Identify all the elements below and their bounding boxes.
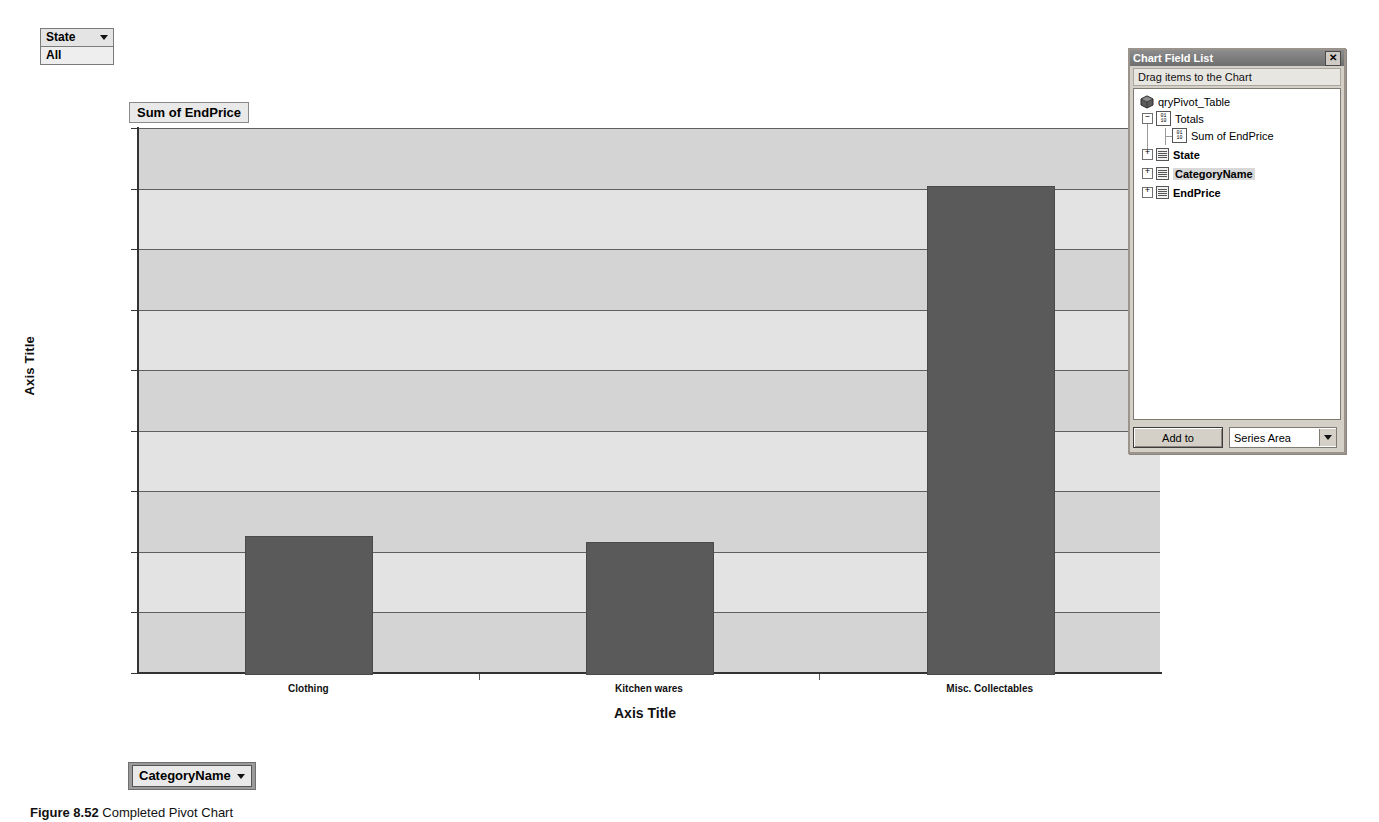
chart-field-list-subtitle: Drag items to the Chart — [1133, 68, 1341, 86]
y-tick-mark — [131, 128, 138, 129]
tree-item-label: Sum of EndPrice — [1191, 130, 1274, 142]
series-title-box[interactable]: Sum of EndPrice — [129, 102, 249, 123]
chart-field-list-tree[interactable]: qryPivot_Table – 0110 Totals 0110 Sum of… — [1133, 88, 1341, 420]
tree-root-row[interactable]: qryPivot_Table — [1140, 93, 1230, 110]
cube-icon — [1140, 95, 1154, 109]
y-tick-mark — [131, 431, 138, 432]
chart-field-list-footer: Add to Series Area — [1133, 427, 1337, 448]
figure-caption: Figure 8.52 Completed Pivot Chart — [30, 805, 233, 820]
chart-bar[interactable] — [927, 186, 1055, 675]
x-tick-label: Kitchen wares — [615, 683, 683, 694]
y-axis-line — [137, 127, 139, 674]
chart-bar[interactable] — [245, 536, 373, 675]
chart-field-list-window[interactable]: Chart Field List ✕ Drag items to the Cha… — [1128, 48, 1346, 454]
expand-plus-icon[interactable]: + — [1142, 168, 1153, 179]
totals-icon: 0110 — [1156, 111, 1171, 126]
tree-item-label: State — [1173, 149, 1200, 161]
y-tick-mark — [131, 552, 138, 553]
chart-gridline — [138, 128, 1160, 129]
field-icon — [1156, 148, 1169, 161]
add-to-button[interactable]: Add to — [1133, 427, 1223, 448]
tree-item-label: CategoryName — [1173, 168, 1255, 180]
x-tick-label: Misc. Collectables — [946, 683, 1033, 694]
category-field-label: CategoryName — [139, 767, 231, 785]
x-tick-mark — [819, 674, 820, 680]
chevron-down-icon[interactable] — [1319, 429, 1336, 446]
y-axis-title[interactable]: Axis Title — [22, 336, 37, 396]
y-tick-mark — [131, 491, 138, 492]
chart-field-list-titlebar[interactable]: Chart Field List ✕ — [1130, 50, 1344, 66]
y-tick-mark — [131, 673, 138, 674]
y-axis-ticks: $0.00$50.00$100.00$150.00$200.00$250.00$… — [0, 0, 132, 822]
expand-plus-icon[interactable]: + — [1142, 187, 1153, 198]
x-tick-mark — [479, 674, 480, 680]
series-title-label: Sum of EndPrice — [137, 105, 241, 120]
tree-item-categoryname[interactable]: + CategoryName — [1142, 165, 1255, 182]
chart-bar[interactable] — [586, 542, 714, 675]
figure-caption-number: Figure 8.52 — [30, 805, 99, 820]
y-tick-mark — [131, 612, 138, 613]
tree-item-sum-of-endprice[interactable]: 0110 Sum of EndPrice — [1172, 127, 1274, 144]
drop-area-select[interactable]: Series Area — [1229, 427, 1337, 448]
y-tick-mark — [131, 370, 138, 371]
drop-area-select-value: Series Area — [1234, 432, 1291, 444]
field-icon — [1156, 186, 1169, 199]
close-icon[interactable]: ✕ — [1325, 51, 1341, 66]
totals-icon: 0110 — [1172, 128, 1187, 143]
chart-field-list-title: Chart Field List — [1133, 50, 1213, 66]
x-tick-label: Clothing — [288, 683, 329, 694]
tree-item-label: Totals — [1175, 113, 1204, 125]
y-tick-mark — [131, 189, 138, 190]
x-axis-title[interactable]: Axis Title — [0, 705, 1290, 721]
category-field-button[interactable]: CategoryName — [132, 765, 252, 787]
tree-item-state[interactable]: + State — [1142, 146, 1200, 163]
chevron-down-icon[interactable] — [237, 774, 245, 779]
category-field-dropzone[interactable]: CategoryName — [128, 762, 256, 790]
figure-caption-text: Completed Pivot Chart — [102, 805, 233, 820]
collapse-minus-icon[interactable]: – — [1142, 113, 1153, 124]
tree-item-endprice[interactable]: + EndPrice — [1142, 184, 1221, 201]
y-tick-mark — [131, 310, 138, 311]
tree-root-label: qryPivot_Table — [1158, 96, 1230, 108]
y-tick-mark — [131, 249, 138, 250]
expand-plus-icon[interactable]: + — [1142, 149, 1153, 160]
tree-item-totals[interactable]: – 0110 Totals — [1142, 110, 1204, 127]
tree-item-label: EndPrice — [1173, 187, 1221, 199]
field-icon — [1156, 167, 1169, 180]
